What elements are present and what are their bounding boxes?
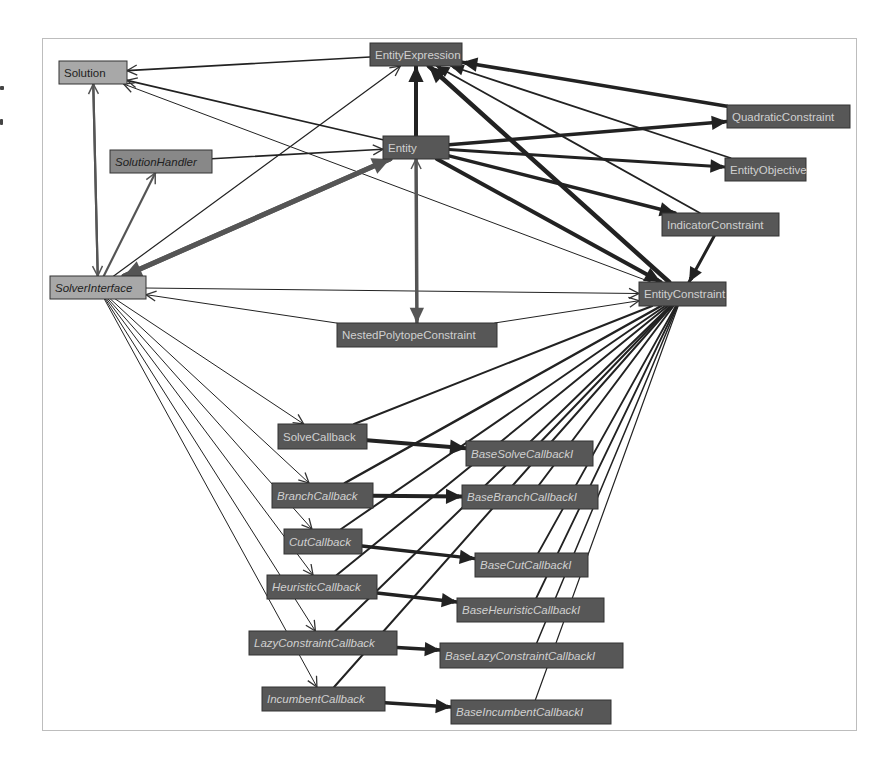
arrowhead-icon: [435, 699, 451, 713]
node-entity-objective[interactable]: EntityObjective: [725, 158, 807, 181]
node-label: BranchCallback: [277, 490, 359, 502]
node-base-solve-callback-i[interactable]: BaseSolveCallbackI: [466, 441, 593, 466]
node-label: SolveCallback: [283, 431, 356, 443]
arrowhead-icon: [408, 66, 423, 82]
arrowhead-icon: [711, 116, 727, 130]
edge-SolverInterface-to-BranchCallback: [110, 299, 309, 483]
node-label: EntityObjective: [730, 164, 807, 176]
node-entity-expression[interactable]: EntityExpression: [370, 43, 462, 66]
node-solver-interface[interactable]: SolverInterface: [50, 276, 146, 299]
edge-QuadraticConstraint-to-EntityExpression: [462, 62, 727, 106]
node-label: HeuristicCallback: [272, 581, 362, 593]
node-incumbent-callback[interactable]: IncumbentCallback: [262, 687, 385, 711]
node-entity[interactable]: Entity: [383, 136, 449, 159]
edge-BaseSolveCallbackI-to-EntityConstraint: [541, 306, 670, 441]
node-label: IncumbentCallback: [267, 693, 366, 705]
node-heuristic-callback[interactable]: HeuristicCallback: [267, 575, 377, 599]
node-label: BaseHeuristicCallbackI: [462, 604, 581, 616]
edge-Entity-to-Solution: [127, 80, 383, 139]
edge-NestedPolytopeConstraint-to-Entity: [416, 159, 417, 323]
node-base-lazy-constraint-callback-i[interactable]: BaseLazyConstraintCallbackI: [440, 643, 623, 668]
edge-LazyConstraintCallback-to-EntityConstraint: [335, 306, 670, 631]
node-label: BaseLazyConstraintCallbackI: [445, 650, 596, 662]
node-label: EntityExpression: [375, 49, 461, 61]
node-label: Entity: [388, 142, 417, 154]
node-entity-constraint[interactable]: EntityConstraint: [639, 282, 726, 306]
node-label: SolverInterface: [55, 282, 132, 294]
node-label: Solution: [64, 67, 106, 79]
edge-SolverInterface-to-SolveCallback: [115, 299, 303, 424]
node-solve-callback[interactable]: SolveCallback: [278, 424, 367, 449]
arrowhead-icon: [446, 489, 462, 504]
node-nested-polytope-constraint[interactable]: NestedPolytopeConstraint: [337, 323, 497, 347]
arrowhead-icon: [424, 642, 440, 656]
node-label: EntityConstraint: [644, 288, 726, 300]
edge-Entity-to-QuadraticConstraint: [449, 122, 727, 145]
edge-SolutionHandler-to-Entity: [212, 149, 383, 158]
node-label: LazyConstraintCallback: [254, 637, 376, 649]
node-base-cut-callback-i[interactable]: BaseCutCallbackI: [475, 553, 588, 577]
node-solution-handler[interactable]: SolutionHandler: [110, 150, 212, 173]
node-quadratic-constraint[interactable]: QuadraticConstraint: [727, 105, 850, 128]
node-lazy-constraint-callback[interactable]: LazyConstraintCallback: [249, 631, 397, 655]
node-label: SolutionHandler: [115, 156, 198, 168]
edge-Entity-to-EntityObjective: [449, 150, 725, 167]
node-indicator-constraint[interactable]: IndicatorConstraint: [662, 213, 779, 236]
node-cut-callback[interactable]: CutCallback: [284, 529, 362, 554]
node-label: CutCallback: [289, 536, 352, 548]
edge-EntityObjective-to-EntityExpression: [451, 66, 731, 158]
edge-EntityConstraint-to-Solution: [124, 84, 651, 282]
edge-Entity-to-EntityConstraint: [437, 159, 661, 282]
node-label: IndicatorConstraint: [667, 219, 764, 231]
dependency-graph: SolutionEntityExpressionEntitySolutionHa…: [0, 0, 892, 759]
edge-SolverInterface-to-EntityConstraint: [146, 288, 639, 293]
node-branch-callback[interactable]: BranchCallback: [272, 483, 373, 508]
node-label: BaseCutCallbackI: [480, 559, 572, 571]
node-solution[interactable]: Solution: [59, 61, 127, 84]
node-base-branch-callback-i[interactable]: BaseBranchCallbackI: [462, 485, 598, 509]
arrowhead-icon: [410, 308, 424, 323]
node-label: BaseSolveCallbackI: [471, 448, 574, 460]
edge-Entity-to-SolverInterface: [124, 159, 390, 276]
node-label: BaseIncumbentCallbackI: [456, 706, 584, 718]
node-base-heuristic-callback-i[interactable]: BaseHeuristicCallbackI: [457, 598, 604, 622]
node-label: BaseBranchCallbackI: [467, 491, 578, 503]
arrowhead-icon: [710, 159, 725, 172]
node-label: NestedPolytopeConstraint: [342, 329, 476, 341]
node-label: QuadraticConstraint: [732, 111, 835, 123]
edge-NestedPolytopeConstraint-to-SolverInterface: [146, 295, 337, 323]
edge-SolverInterface-to-SolutionHandler: [104, 173, 156, 276]
edge-EntityExpression-to-Solution: [127, 57, 370, 71]
diagram-canvas: SolutionEntityExpressionEntitySolutionHa…: [0, 0, 892, 759]
node-base-incumbent-callback-i[interactable]: BaseIncumbentCallbackI: [451, 700, 611, 724]
arrowhead-icon: [449, 439, 466, 454]
edge-Solution-to-SolverInterface: [93, 84, 97, 276]
